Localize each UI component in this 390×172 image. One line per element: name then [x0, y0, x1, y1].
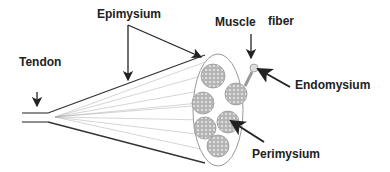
- label-tendon: Tendon: [19, 55, 61, 69]
- label-endomysium: Endomysium: [295, 78, 370, 92]
- label-epimysium: Epimysium: [97, 7, 161, 21]
- label-fiber: fiber: [268, 14, 294, 28]
- tendon: [22, 113, 48, 122]
- epimysium-outline: [48, 55, 205, 163]
- label-muscle: Muscle: [215, 15, 256, 29]
- epimysium-arrow-2: [128, 25, 201, 57]
- endomysium-arrow: [258, 69, 290, 87]
- annotation-arrows: [37, 25, 290, 142]
- label-perimysium: Perimysium: [252, 147, 320, 161]
- muscle-fiber-strand: [245, 64, 258, 86]
